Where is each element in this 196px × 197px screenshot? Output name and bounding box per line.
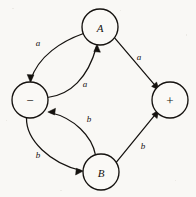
scan-speckle [60, 190, 62, 191]
edge-a-to-plus-path [115, 38, 158, 89]
edge-a-to-plus: a [115, 38, 160, 91]
edge-minus-to-a-path [48, 47, 97, 98]
edge-minus-to-b-path [26, 118, 81, 171]
edge-label-b-to-plus: b [141, 141, 146, 151]
node-plus[interactable]: + [152, 82, 188, 118]
edge-minus-to-b: b [26, 118, 83, 175]
edge-b-to-plus: b [116, 110, 159, 162]
scan-speckle [120, 10, 121, 11]
scan-speckle [12, 8, 14, 9]
node-b[interactable]: B [83, 154, 119, 190]
node-b-label: B [98, 167, 105, 179]
edge-label-minus-to-b: b [36, 150, 41, 160]
edge-label-a-to-plus: a [137, 52, 142, 62]
node-plus-label: + [166, 93, 173, 108]
scan-speckle [6, 120, 7, 121]
state-diagram-canvas: a a a b b b [0, 0, 196, 197]
scan-speckle [186, 34, 187, 36]
node-minus-label: − [26, 93, 33, 108]
edge-label-minus-to-a: a [83, 79, 88, 89]
edge-minus-to-a: a [48, 44, 101, 97]
edge-label-a-to-minus: a [36, 38, 41, 48]
edge-a-to-minus-arrowhead [27, 75, 34, 83]
edge-b-to-plus-path [116, 112, 157, 163]
node-a[interactable]: A [82, 9, 118, 45]
edge-minus-to-b-arrowhead [76, 168, 84, 175]
edge-label-b-to-minus: b [87, 114, 92, 124]
edge-b-to-minus: b [48, 108, 96, 155]
scan-speckle [175, 180, 176, 181]
node-a-label: A [96, 22, 104, 34]
state-diagram-svg: a a a b b b [0, 0, 196, 197]
node-minus[interactable]: − [12, 82, 48, 118]
edge-a-to-minus: a [27, 34, 83, 83]
edge-b-to-minus-arrowhead [48, 108, 56, 115]
